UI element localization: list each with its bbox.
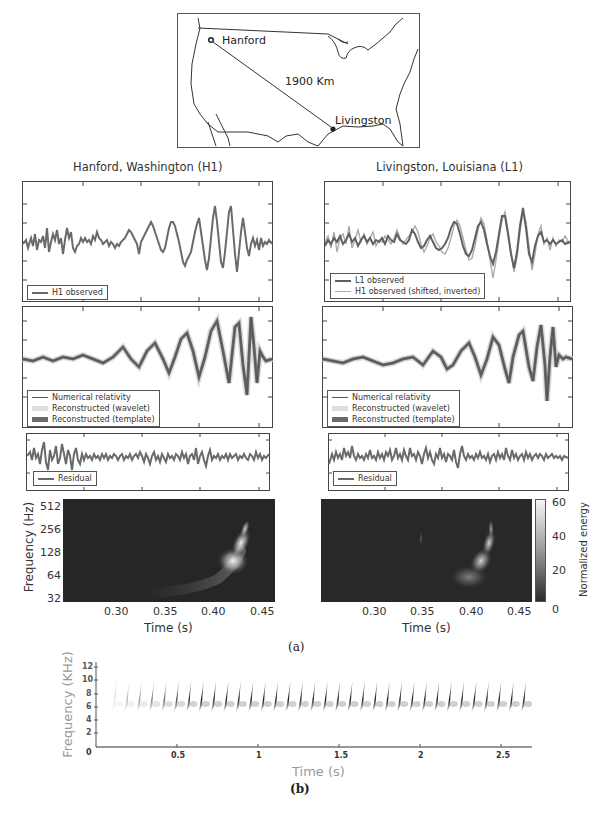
wavelet-swatch: [32, 406, 48, 411]
l1-observed-panel: L1 observed H1 observed (shifted, invert…: [324, 181, 571, 302]
bird-time-tick: 2.5: [496, 751, 510, 760]
legend-label: L1 observed: [355, 275, 404, 286]
syllable-streaks: [112, 674, 532, 712]
time-tick: 0.35: [153, 605, 178, 618]
bird-freq-tick: 4: [86, 715, 92, 724]
caption-a: (a): [288, 640, 305, 654]
freq-tick: 64: [47, 569, 61, 582]
us-map: Hanford 1900 Km Livingston: [177, 13, 420, 148]
time-tick: 0.30: [362, 605, 387, 618]
legend-label: Numerical relativity: [352, 392, 431, 403]
legend-label: H1 observed: [52, 287, 103, 298]
time-tick: 0.45: [250, 605, 275, 618]
livingston-label: Livingston: [335, 114, 391, 127]
legend-label: Reconstructed (template): [352, 414, 455, 425]
l1-observed-legend: L1 observed H1 observed (shifted, invert…: [330, 273, 485, 299]
right-column-title: Livingston, Louisiana (L1): [376, 160, 523, 174]
bird-xlabel: Time (s): [292, 764, 345, 779]
h1-reconstruction-legend: Numerical relativity Reconstructed (wave…: [27, 390, 160, 427]
colorbar: [535, 499, 546, 602]
caption-b: (b): [290, 782, 310, 796]
bird-spectrogram: [94, 660, 534, 750]
bird-freq-tick: 8: [86, 689, 92, 698]
time-tick: 0.40: [459, 605, 484, 618]
bird-ylabel: Frequency (KHz): [60, 650, 75, 760]
nr-line-swatch: [32, 397, 48, 398]
h1-observed-panel: H1 observed: [22, 181, 273, 302]
h1-residual-panel: Residual: [26, 433, 270, 491]
l1-residual-panel: Residual: [328, 433, 569, 491]
h1-spectrogram-xlabel: Time (s): [144, 621, 193, 635]
template-swatch: [32, 417, 48, 422]
bird-time-tick: 1.5: [334, 751, 348, 760]
h1-observed-legend: H1 observed: [27, 285, 108, 300]
bird-freq-tick: 10: [82, 675, 93, 684]
l1-spectrogram-xlabel: Time (s): [402, 621, 451, 635]
colorbar-label: Normalized energy: [578, 495, 589, 605]
h1-observed-plot: [23, 182, 272, 301]
legend-label: Reconstructed (wavelet): [352, 403, 450, 414]
legend-label: Reconstructed (wavelet): [52, 403, 150, 414]
legend-label: Reconstructed (template): [52, 414, 155, 425]
nr-line-swatch: [332, 397, 348, 398]
legend-label: Residual: [358, 473, 392, 484]
colorbar-tick: 40: [552, 530, 566, 543]
bird-freq-tick: 6: [86, 702, 92, 711]
left-column-title: Hanford, Washington (H1): [73, 160, 222, 174]
l1-residual-legend: Residual: [333, 471, 397, 486]
residual-line-swatch: [338, 478, 354, 480]
freq-tick: 256: [40, 523, 61, 536]
freq-tick: 512: [40, 500, 61, 513]
h1-residual-legend: Residual: [33, 471, 97, 486]
hanford-marker: [209, 38, 214, 43]
bird-time-tick: 1: [256, 751, 262, 760]
bird-time-tick: 2: [418, 751, 424, 760]
l1-spectrogram: [321, 499, 532, 602]
colorbar-tick: 20: [552, 564, 566, 577]
l1-line-swatch: [335, 280, 351, 282]
distance-label: 1900 Km: [285, 75, 334, 88]
legend-label: Numerical relativity: [52, 392, 131, 403]
time-tick: 0.40: [201, 605, 226, 618]
h1-shifted-line-swatch: [335, 291, 351, 292]
legend-label: H1 observed (shifted, inverted): [355, 286, 480, 297]
h1-spectrogram: [63, 499, 275, 602]
time-tick: 0.30: [104, 605, 129, 618]
l1-reconstruction-panel: Numerical relativity Reconstructed (wave…: [322, 306, 573, 428]
bird-freq-tick: 12: [82, 662, 93, 671]
freq-tick: 128: [40, 546, 61, 559]
bird-freq-tick: 0: [86, 748, 92, 757]
l1-reconstruction-legend: Numerical relativity Reconstructed (wave…: [327, 390, 460, 427]
bird-time-tick: 0.5: [171, 751, 185, 760]
freq-tick: 32: [47, 592, 61, 605]
legend-label: Residual: [58, 473, 92, 484]
colorbar-tick: 60: [552, 496, 566, 509]
bird-freq-tick: 2: [86, 728, 92, 737]
hanford-label: Hanford: [222, 34, 266, 47]
time-tick: 0.35: [410, 605, 435, 618]
time-tick: 0.45: [507, 605, 532, 618]
wavelet-swatch: [332, 406, 348, 411]
template-swatch: [332, 417, 348, 422]
colorbar-tick: 0: [552, 603, 559, 616]
livingston-marker: [330, 126, 335, 131]
h1-reconstruction-panel: Numerical relativity Reconstructed (wave…: [22, 306, 273, 428]
h1-spectrogram-ylabel: Frequency (Hz): [22, 497, 36, 597]
residual-line-swatch: [38, 478, 54, 480]
h1-line-swatch: [32, 292, 48, 294]
